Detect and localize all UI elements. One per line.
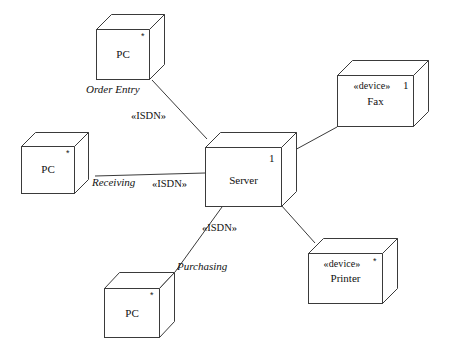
connection-role-order-entry: Order Entry <box>86 84 140 95</box>
node-label-server: Server <box>205 174 282 186</box>
node-box-shape <box>96 14 166 80</box>
node-server[interactable]: Server 1 <box>205 132 297 207</box>
node-box-shape <box>308 238 398 304</box>
node-stereotype-fax: «device» <box>337 80 407 92</box>
node-box-shape <box>104 272 176 338</box>
connection-role-purchasing: Purchasing <box>177 261 227 272</box>
uml-deployment-diagram-canvas: PC * PC * PC * <box>0 0 454 360</box>
connection-role-receiving: Receiving <box>92 177 135 188</box>
node-multiplicity-fax: 1 <box>403 80 409 91</box>
node-label-printer: Printer <box>308 272 383 284</box>
node-label-fax: Fax <box>337 95 414 107</box>
node-pc-receiving[interactable]: PC * <box>21 132 91 194</box>
connection-line-fax[interactable] <box>293 127 337 151</box>
node-multiplicity-server: 1 <box>269 153 275 164</box>
node-multiplicity-printer: * <box>373 257 377 266</box>
node-label-pc-purchasing: PC <box>104 307 160 319</box>
node-printer[interactable]: «device» Printer * <box>308 238 398 304</box>
node-stereotype-printer: «device» <box>308 258 376 270</box>
node-fax[interactable]: «device» Fax 1 <box>337 60 429 127</box>
connection-stereotype-receiving: «ISDN» <box>152 178 187 189</box>
node-multiplicity-pc-order-entry: * <box>141 32 145 41</box>
node-label-pc-order-entry: PC <box>96 48 150 60</box>
connection-stereotype-purchasing: «ISDN» <box>202 222 237 233</box>
node-pc-order-entry[interactable]: PC * <box>96 14 166 80</box>
node-box-shape <box>337 60 429 127</box>
connection-stereotype-order-entry: «ISDN» <box>131 110 166 121</box>
node-multiplicity-pc-receiving: * <box>66 149 70 158</box>
node-box-shape <box>205 132 297 207</box>
node-label-pc-receiving: PC <box>21 163 75 175</box>
node-multiplicity-pc-purchasing: * <box>150 291 154 300</box>
node-pc-purchasing[interactable]: PC * <box>104 272 176 338</box>
